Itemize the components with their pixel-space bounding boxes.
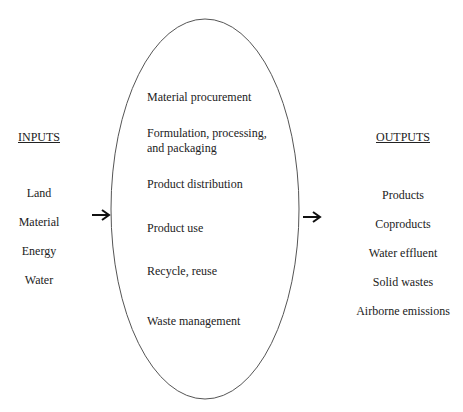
output-item: Products xyxy=(382,188,424,203)
life-cycle-ellipse xyxy=(111,19,299,399)
stage-label: Product distribution xyxy=(147,177,243,192)
input-item: Water xyxy=(25,273,53,288)
input-item: Material xyxy=(19,215,60,230)
output-item: Solid wastes xyxy=(373,275,433,290)
output-item: Water effluent xyxy=(369,246,437,261)
output-item: Airborne emissions xyxy=(356,304,450,319)
input-item: Land xyxy=(27,186,52,201)
stage-label: Product use xyxy=(147,221,203,236)
outputs-heading: OUTPUTS xyxy=(376,130,430,145)
stage-label: Recycle, reuse xyxy=(147,264,217,279)
input-arrow-icon xyxy=(92,210,109,220)
stage-label: Waste management xyxy=(147,314,240,329)
output-arrow-icon xyxy=(303,212,320,222)
inputs-heading: INPUTS xyxy=(18,130,60,145)
stage-label: and packaging xyxy=(147,141,217,156)
stage-label: Formulation, processing, xyxy=(147,126,267,141)
input-item: Energy xyxy=(22,244,56,259)
output-item: Coproducts xyxy=(375,217,430,232)
stage-label: Material procurement xyxy=(147,90,251,105)
diagram-graphics xyxy=(0,0,463,412)
